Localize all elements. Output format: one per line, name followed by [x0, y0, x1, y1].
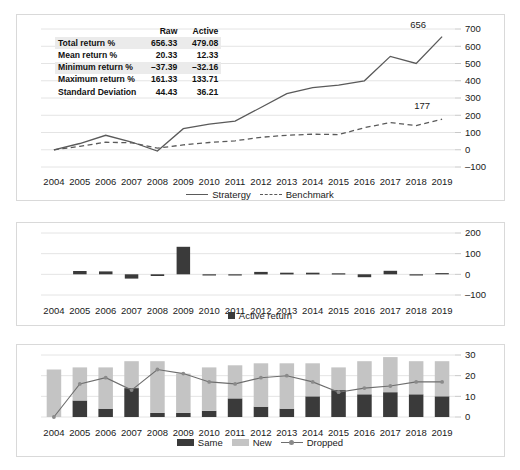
stat-label: Mean return % — [55, 49, 139, 61]
y-axis-tick-label: 30 — [465, 349, 476, 360]
y-axis-tick-label: 400 — [465, 75, 481, 86]
x-axis-tick-label: 2006 — [95, 176, 116, 187]
table-row: Mean return %20.3312.33 — [55, 49, 221, 61]
stat-active-value: 36.21 — [180, 86, 221, 98]
bar-active-return — [228, 274, 242, 275]
bar-active-return — [280, 273, 294, 275]
dark-square-icon — [228, 312, 235, 319]
legend-item-active-return: Active return — [228, 310, 292, 321]
table-row: Maximum return %161.33133.71 — [55, 74, 221, 86]
bar-active-return — [151, 274, 165, 276]
data-point-dropped — [363, 386, 367, 390]
chart3-legend: Same New Dropped — [0, 437, 520, 448]
data-point-dropped — [207, 380, 211, 384]
y-axis-tick-label: 300 — [465, 92, 481, 103]
y-axis-tick-label: 0 — [465, 269, 470, 280]
y-axis-tick-label: 500 — [465, 58, 481, 69]
bar-active-return — [358, 274, 372, 277]
data-point-dropped — [414, 380, 418, 384]
chart2-legend: Active return — [0, 310, 520, 321]
table-header-row: Raw Active — [55, 25, 221, 37]
bar-same — [228, 398, 243, 417]
data-point-dropped — [337, 390, 341, 394]
bar-active-return — [254, 272, 268, 275]
x-axis-tick-label: 2018 — [406, 176, 427, 187]
bar-new — [280, 363, 295, 409]
legend-item-benchmark: Benchmark — [260, 189, 334, 200]
stat-active-value: –32.16 — [180, 62, 221, 74]
series-line-benchmark — [54, 119, 442, 150]
stat-label: Maximum return % — [55, 74, 139, 86]
table-row: Standard Deviation44.4336.21 — [55, 86, 221, 98]
bar-new — [124, 361, 139, 388]
bar-new — [176, 374, 191, 413]
stat-raw-value: 161.33 — [139, 74, 180, 86]
data-point-dropped — [130, 388, 134, 392]
line-marker-icon — [281, 439, 303, 446]
legend-label-dropped: Dropped — [307, 437, 343, 448]
y-axis-tick-label: 600 — [465, 41, 481, 52]
legend-label-new: New — [253, 437, 272, 448]
stat-label: Minimum return % — [55, 62, 139, 74]
bar-same — [73, 401, 88, 418]
x-axis-tick-label: 2010 — [199, 176, 220, 187]
bar-same — [331, 390, 346, 417]
bar-same — [280, 409, 295, 417]
y-axis-tick-label: –100 — [465, 161, 486, 172]
bar-same — [124, 388, 139, 417]
x-axis-tick-label: 2016 — [354, 176, 375, 187]
x-axis-tick-label: 2011 — [225, 176, 245, 187]
statistics-table: Raw Active Total return %656.33479.08Mea… — [55, 25, 221, 98]
table-row: Total return %656.33479.08 — [55, 37, 221, 49]
bar-same — [305, 396, 320, 417]
stat-raw-value: –37.39 — [139, 62, 180, 74]
table-header: Raw Active — [55, 25, 221, 37]
data-point-dropped — [52, 415, 56, 419]
bar-new — [331, 367, 346, 390]
legend-label-active-return: Active return — [239, 310, 292, 321]
x-axis-tick-label: 2007 — [121, 176, 142, 187]
bar-same — [254, 407, 269, 417]
bar-same — [176, 413, 191, 417]
bar-new — [98, 367, 113, 408]
bar-new — [202, 367, 217, 410]
data-point-dropped — [388, 384, 392, 388]
bar-same — [357, 394, 372, 417]
table-row: Minimum return %–37.39–32.16 — [55, 62, 221, 74]
x-axis-tick-label: 2008 — [147, 176, 168, 187]
bar-new — [305, 363, 320, 396]
bar-same — [383, 392, 398, 417]
data-label-177: 177 — [414, 100, 430, 111]
y-axis-tick-label: 0 — [465, 411, 470, 422]
x-axis-tick-label: 2013 — [276, 176, 297, 187]
light-rect-icon — [232, 439, 249, 446]
y-axis-tick-label: –100 — [465, 289, 486, 300]
x-axis-tick-label: 2004 — [43, 176, 64, 187]
stat-raw-value: 656.33 — [139, 37, 180, 49]
stat-active-value: 479.08 — [180, 37, 221, 49]
y-axis-tick-label: 100 — [465, 127, 481, 138]
data-point-dropped — [259, 376, 263, 380]
bar-active-return — [177, 247, 191, 274]
data-point-dropped — [311, 380, 315, 384]
bar-new — [435, 361, 450, 396]
data-point-dropped — [440, 380, 444, 384]
y-axis-tick-label: 200 — [465, 227, 481, 238]
bar-active-return — [125, 274, 139, 278]
table-body: Total return %656.33479.08Mean return %2… — [55, 37, 221, 98]
bar-same — [202, 411, 217, 417]
x-axis-tick-label: 2005 — [69, 176, 90, 187]
bar-new — [409, 361, 424, 394]
legend-label-benchmark: Benchmark — [286, 189, 334, 200]
x-axis-tick-label: 2015 — [328, 176, 349, 187]
legend-item-stratergy: Stratergy — [186, 189, 251, 200]
data-label-656: 656 — [410, 19, 426, 30]
bar-active-return — [73, 271, 87, 274]
y-axis-tick-label: 10 — [465, 391, 476, 402]
column-header-blank — [55, 25, 139, 37]
column-header-active: Active — [180, 25, 221, 37]
data-point-dropped — [181, 372, 185, 376]
stat-raw-value: 44.43 — [139, 86, 180, 98]
bar-active-return — [332, 273, 346, 274]
bar-new — [254, 363, 269, 406]
